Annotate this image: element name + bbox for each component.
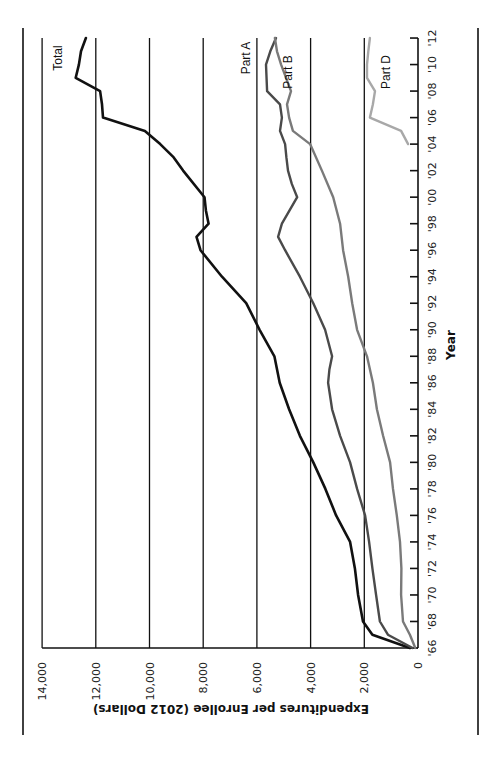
series-line-part-d bbox=[367, 38, 408, 144]
series-line-part-b bbox=[275, 38, 415, 648]
x-tick-label: '92 bbox=[426, 295, 439, 312]
x-tick-label: '08 bbox=[426, 83, 439, 100]
x-tick-label: '74 bbox=[426, 533, 439, 550]
x-tick-label: '66 bbox=[426, 639, 439, 656]
series-line-total bbox=[76, 38, 410, 648]
x-tick-label: '90 bbox=[426, 321, 439, 338]
x-axis-tick-labels: '66'68'70'72'74'76'78'80'82'84'86'88'90'… bbox=[426, 30, 439, 657]
x-tick-label: '70 bbox=[426, 586, 439, 603]
series-label-total: Total bbox=[51, 45, 65, 70]
x-tick-label: '04 bbox=[426, 136, 439, 153]
x-tick-label: '00 bbox=[426, 189, 439, 206]
series-label-part-d: Part D bbox=[379, 55, 393, 89]
x-tick-label: '80 bbox=[426, 454, 439, 471]
series-labels: TotalPart APart BPart D bbox=[51, 42, 393, 89]
x-tick-label: '88 bbox=[426, 348, 439, 365]
series-label-part-b: Part B bbox=[281, 55, 295, 88]
x-tick-label: '76 bbox=[426, 507, 439, 524]
x-tick-label: '82 bbox=[426, 427, 439, 444]
x-tick-label: '68 bbox=[426, 613, 439, 630]
y-tick-label: 8,000 bbox=[197, 662, 210, 694]
series-label-part-a: Part A bbox=[239, 42, 253, 75]
x-tick-label: '96 bbox=[426, 242, 439, 259]
y-axis-tick-labels: 02,0004,0006,0008,00010,00012,00014,000 bbox=[36, 662, 425, 701]
x-tick-label: '02 bbox=[426, 162, 439, 179]
x-tick-label: '98 bbox=[426, 215, 439, 232]
x-tick-label: '86 bbox=[426, 374, 439, 391]
x-axis-title: Year bbox=[444, 330, 458, 361]
x-tick-label: '78 bbox=[426, 480, 439, 497]
y-tick-label: 6,000 bbox=[251, 662, 264, 694]
y-tick-label: 4,000 bbox=[305, 662, 318, 694]
x-tick-label: '84 bbox=[426, 401, 439, 418]
y-tick-label: 10,000 bbox=[144, 662, 157, 701]
line-chart: 02,0004,0006,0008,00010,00012,00014,000 … bbox=[0, 0, 495, 762]
x-tick-label: '72 bbox=[426, 560, 439, 577]
x-tick-label: '12 bbox=[426, 30, 439, 47]
series-line-part-a bbox=[266, 38, 413, 648]
y-tick-label: 14,000 bbox=[36, 662, 49, 701]
x-tick-label: '94 bbox=[426, 268, 439, 285]
x-axis bbox=[410, 38, 418, 648]
y-tick-label: 0 bbox=[412, 662, 425, 669]
x-tick-label: '06 bbox=[426, 109, 439, 126]
y-tick-label: 12,000 bbox=[90, 662, 103, 701]
x-tick-label: '10 bbox=[426, 56, 439, 73]
y-tick-label: 2,000 bbox=[358, 662, 371, 694]
y-axis-title: Expenditures per Enrollee (2012 Dollars) bbox=[93, 702, 369, 716]
